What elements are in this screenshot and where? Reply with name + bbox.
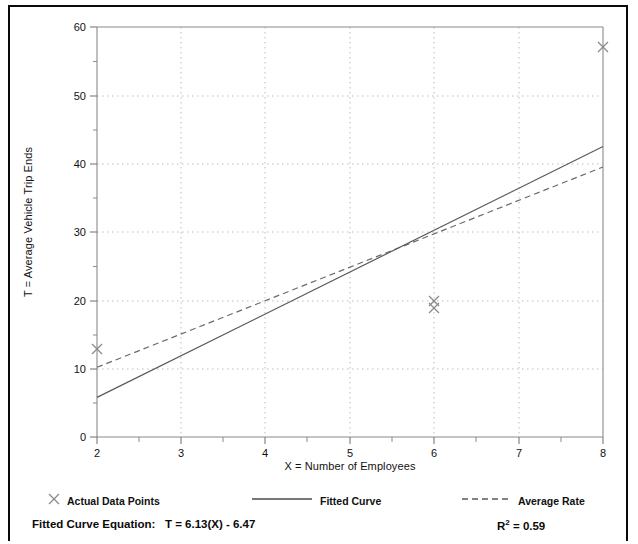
y-tick-label-60: 60 xyxy=(58,21,86,33)
equation-row: Fitted Curve Equation: T = 6.13(X) - 6.4… xyxy=(22,518,618,538)
data-point-marker xyxy=(429,303,439,313)
x-tick-label-7: 7 xyxy=(507,447,531,459)
y-tick-label-50: 50 xyxy=(58,90,86,102)
fitted-curve-equation: Fitted Curve Equation: T = 6.13(X) - 6.4… xyxy=(32,518,255,530)
r-squared-value: R2 = 0.59 xyxy=(497,518,545,532)
fitted-curve-line xyxy=(97,147,603,398)
x-axis-title: X = Number of Employees xyxy=(97,460,603,472)
x-tick-label-4: 4 xyxy=(253,447,277,459)
equation-label: Fitted Curve Equation: xyxy=(32,518,155,530)
y-tick-label-20: 20 xyxy=(58,295,86,307)
chart-legend: Actual Data Points Fitted Curve Average … xyxy=(22,492,618,510)
x-major-ticks xyxy=(97,437,603,444)
r-squared-exponent: 2 xyxy=(505,518,509,527)
r-squared-number: = 0.59 xyxy=(513,520,545,532)
chart-page: 60 50 40 30 20 10 0 2 3 4 5 6 7 8 T = Av… xyxy=(0,0,638,544)
scatter-chart: 60 50 40 30 20 10 0 2 3 4 5 6 7 8 T = Av… xyxy=(0,0,638,544)
x-tick-label-2: 2 xyxy=(85,447,109,459)
x-tick-label-3: 3 xyxy=(169,447,193,459)
equation-value: T = 6.13(X) - 6.47 xyxy=(165,518,255,530)
legend-label-average-rate: Average Rate xyxy=(518,495,585,507)
legend-label-actual-data-points: Actual Data Points xyxy=(67,495,160,507)
x-tick-label-8: 8 xyxy=(591,447,615,459)
legend-label-fitted-curve: Fitted Curve xyxy=(320,495,381,507)
y-tick-label-40: 40 xyxy=(58,158,86,170)
y-tick-label-10: 10 xyxy=(58,363,86,375)
y-tick-label-0: 0 xyxy=(58,431,86,443)
x-tick-label-5: 5 xyxy=(338,447,362,459)
y-tick-label-30: 30 xyxy=(58,226,86,238)
x-tick-label-6: 6 xyxy=(422,447,446,459)
y-major-ticks xyxy=(90,27,97,437)
y-axis-title: T = Average Vehicle Trip Ends xyxy=(22,122,34,322)
